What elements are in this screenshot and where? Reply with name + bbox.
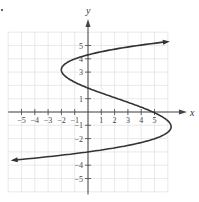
x-tick-label: 5 (153, 116, 157, 125)
y-axis-label: y (85, 5, 91, 16)
x-tick-label: −3 (44, 116, 53, 125)
x-tick-label: −4 (31, 116, 40, 125)
y-tick-label: −2 (74, 135, 83, 144)
y-tick-label: −5 (74, 175, 83, 184)
y-tick-label: −1 (74, 121, 83, 130)
x-tick-label: 3 (126, 116, 130, 125)
x-tick-label: −2 (57, 116, 66, 125)
y-tick-label: 3 (79, 68, 83, 77)
chart: −5−4−3−2−1123455431−1−2−4−5 x y (0, 0, 199, 202)
x-tick-label: −5 (17, 116, 26, 125)
y-tick-label: −4 (74, 161, 83, 170)
x-tick-label: 4 (139, 116, 143, 125)
y-tick-label: 1 (79, 95, 83, 104)
x-tick-label: 2 (113, 116, 117, 125)
x-tick-label: 1 (99, 116, 103, 125)
y-tick-label: 5 (79, 42, 83, 51)
x-axis-label: x (189, 107, 195, 118)
